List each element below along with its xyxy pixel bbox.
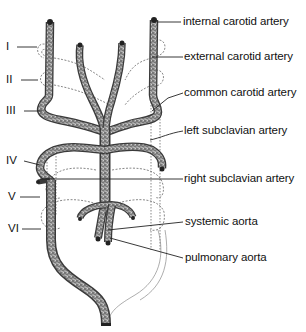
label-left-subclavian-artery: left subclavian artery <box>184 125 287 137</box>
arch-label-VI: VI <box>8 223 19 235</box>
arch-label-III: III <box>6 105 16 117</box>
arch-label-II: II <box>6 74 12 86</box>
arch-label-V: V <box>8 191 16 203</box>
label-systemic-aorta: systemic aorta <box>185 216 258 228</box>
arch-label-IV: IV <box>6 155 17 167</box>
label-external-carotid-artery: external carotid artery <box>184 51 293 63</box>
label-common-carotid-artery: common carotid artery <box>184 87 296 99</box>
arch-label-I: I <box>6 41 9 53</box>
label-internal-carotid-artery: internal carotid artery <box>183 16 289 28</box>
label-right-subclavian-artery: right subclavian artery <box>184 173 294 185</box>
artery-vessels <box>36 17 165 326</box>
label-pulmonary-aorta: pulmonary aorta <box>185 252 267 264</box>
